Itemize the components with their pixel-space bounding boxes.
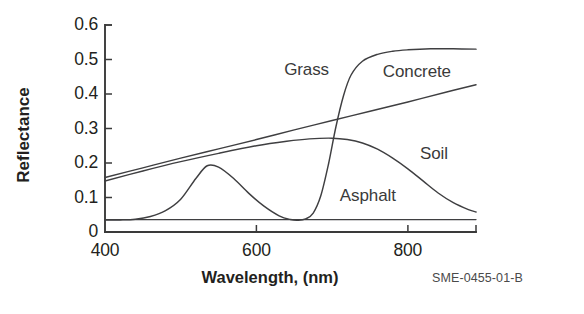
x-axis-title: Wavelength, (nm)	[150, 268, 390, 287]
y-tick-label: 0.3	[40, 118, 98, 139]
y-tick-label: 0.1	[40, 187, 98, 208]
y-tick-label: 0.5	[40, 49, 98, 70]
figure-code-label: SME-0455-01-B	[432, 271, 523, 285]
y-tick-label: 0.6	[40, 14, 98, 35]
series-label-soil: Soil	[420, 144, 448, 164]
y-axis-title: Reflectance	[14, 75, 34, 195]
series-label-grass: Grass	[284, 60, 329, 80]
spectral-reflectance-figure: 00.10.20.30.40.50.6 400600800 GrassConcr…	[0, 0, 584, 314]
x-tick-label: 800	[378, 240, 438, 261]
x-tick-label: 400	[75, 240, 135, 261]
series-label-asphalt: Asphalt	[340, 186, 396, 206]
y-axis-ticks	[105, 25, 112, 198]
x-axis-ticks	[256, 225, 408, 232]
x-tick-label: 600	[226, 240, 286, 261]
y-tick-label: 0.2	[40, 152, 98, 173]
series-label-concrete: Concrete	[383, 62, 451, 82]
y-tick-label: 0	[40, 221, 98, 242]
y-tick-label: 0.4	[40, 83, 98, 104]
